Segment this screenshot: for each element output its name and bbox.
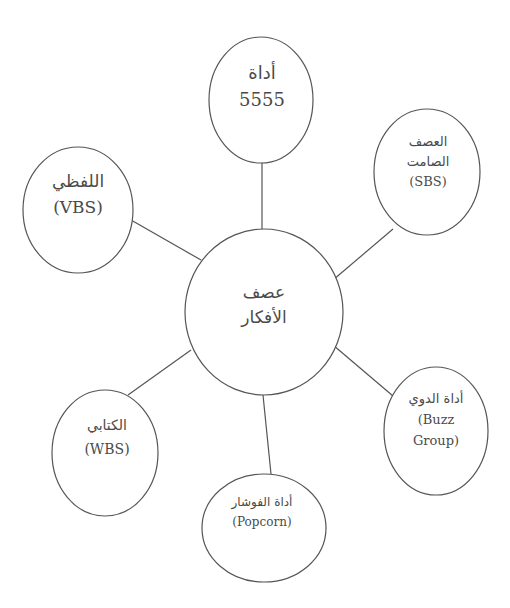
node-silent-sbs-line-2: الصامت [407,152,450,172]
node-tool-5555-line-2: 5555 [239,86,285,113]
node-popcorn-line-2: (Popcorn) [232,512,293,532]
node-verbal-vbs-label: اللفظي (VBS) [52,168,104,220]
node-silent-sbs-line-3: (SBS) [407,172,450,192]
connector-written-wbs [128,350,191,395]
node-verbal-vbs-line-1: اللفظي [52,168,104,194]
node-center-line-2: الأفكار [241,305,286,330]
connector-verbal-vbs [131,220,201,260]
connector-silent-sbs [333,229,393,280]
node-verbal-vbs-line-2: (VBS) [52,194,104,220]
connector-popcorn [263,395,271,474]
connector-buzz-group [333,345,393,396]
node-center-label: عصف الأفكار [241,280,286,330]
node-written-wbs-line-2: (WBS) [84,437,129,461]
node-tool-5555-line-1: أداة [239,59,285,86]
node-written-wbs-label: الكتابي (WBS) [84,413,129,461]
node-silent-sbs-line-1: العصف [407,132,450,152]
node-buzz-group-label: أداة الدوي (Buzz Group) [409,388,464,451]
node-buzz-group-line-2: (Buzz [409,409,464,430]
node-tool-5555-label: أداة 5555 [239,59,285,113]
node-written-wbs-line-1: الكتابي [84,413,129,437]
node-buzz-group-line-3: Group) [409,430,464,451]
node-popcorn-line-1: أداة الفوشار [232,492,293,512]
node-center-line-1: عصف [241,280,286,305]
node-popcorn-label: أداة الفوشار (Popcorn) [232,492,293,532]
node-buzz-group-line-1: أداة الدوي [409,388,464,409]
node-silent-sbs-label: العصف الصامت (SBS) [407,132,450,192]
